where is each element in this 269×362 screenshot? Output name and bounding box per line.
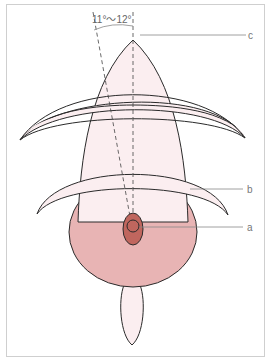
label-a: a bbox=[247, 222, 253, 233]
label-b: b bbox=[247, 184, 253, 195]
anatomy-diagram: 11°〜12° c b a bbox=[0, 0, 269, 362]
angle-label: 11°〜12° bbox=[92, 14, 132, 25]
angle-arc bbox=[94, 25, 133, 30]
inner-oval bbox=[123, 213, 143, 245]
lower-lobe bbox=[121, 285, 144, 345]
label-c: c bbox=[248, 30, 253, 41]
